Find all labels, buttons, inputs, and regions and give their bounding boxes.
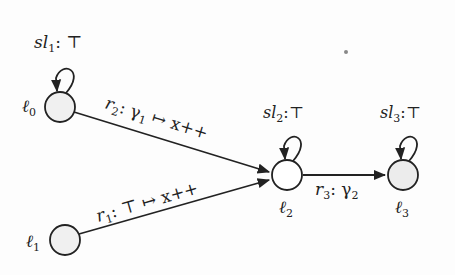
node-l1 [50,225,80,255]
self-loop-label-l2: sl2:⊤ [263,103,304,125]
self-loop-l3 [400,137,417,161]
self-loop-l2 [284,137,301,161]
node-label-l2: ℓ2 [279,197,293,220]
node-l3 [388,160,418,190]
diagram-canvas: ℓ0 ℓ1 ℓ2 ℓ3 sl1: ⊤ sl2:⊤ sl3:⊤ r2: γ1 ↦ … [0,0,455,275]
node-label-l3: ℓ3 [395,197,409,220]
self-loop-label-l0: sl1: ⊤ [34,32,82,55]
edge-label-r3: r3: γ2 [315,179,358,202]
scan-artifact-dot [344,50,348,54]
self-loop-label-l3: sl3:⊤ [380,103,421,125]
node-label-l0: ℓ0 [22,96,36,119]
node-l0 [45,92,75,122]
state-graph: ℓ0 ℓ1 ℓ2 ℓ3 sl1: ⊤ sl2:⊤ sl3:⊤ r2: γ1 ↦ … [0,0,455,275]
node-l2 [272,160,302,190]
node-label-l1: ℓ1 [26,231,40,254]
self-loop-l0 [56,69,74,93]
